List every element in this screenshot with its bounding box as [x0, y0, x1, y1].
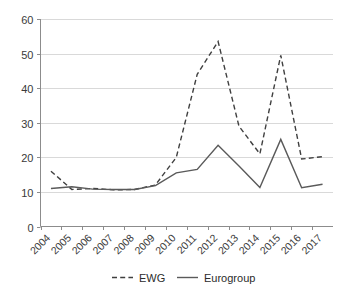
- y-tick-label: 60: [21, 14, 33, 26]
- x-tick-label: 2017: [299, 231, 324, 256]
- x-tick-label: 2011: [174, 231, 199, 256]
- x-tick-label: 2009: [132, 231, 157, 256]
- gridlines-group: [41, 20, 334, 193]
- legend: EWG Eurogroup: [112, 272, 255, 284]
- y-tick-label: 0: [27, 222, 33, 234]
- x-tick-label: 2006: [69, 231, 94, 256]
- y-tick-label: 30: [21, 118, 33, 130]
- series-line-eurogroup: [51, 139, 323, 189]
- legend-label-eurogroup: Eurogroup: [204, 272, 255, 284]
- x-tick-label: 2007: [90, 231, 115, 256]
- x-axis-tick-marks: [42, 227, 313, 231]
- x-tick-label: 2008: [111, 231, 136, 256]
- x-tick-label: 2004: [27, 231, 52, 256]
- y-tick-label: 10: [21, 187, 33, 199]
- chart-container: 0102030405060 20042005200620072008200920…: [0, 0, 348, 295]
- x-tick-label: 2012: [195, 231, 220, 256]
- x-tick-label: 2016: [278, 231, 303, 256]
- line-chart: 0102030405060 20042005200620072008200920…: [0, 0, 348, 295]
- y-axis-tick-marks: [37, 20, 41, 228]
- series-line-ewg: [51, 41, 323, 189]
- x-tick-label: 2015: [257, 231, 282, 256]
- x-axis-tick-labels: 2004200520062007200820092010201120122013…: [27, 231, 324, 256]
- x-tick-label: 2005: [48, 231, 73, 256]
- x-tick-label: 2013: [215, 231, 240, 256]
- y-tick-label: 20: [21, 152, 33, 164]
- y-tick-label: 40: [21, 83, 33, 95]
- x-tick-label: 2014: [236, 231, 261, 256]
- x-tick-label: 2010: [153, 231, 178, 256]
- legend-label-ewg: EWG: [139, 272, 165, 284]
- y-axis-tick-labels: 0102030405060: [21, 14, 33, 234]
- y-tick-label: 50: [21, 49, 33, 61]
